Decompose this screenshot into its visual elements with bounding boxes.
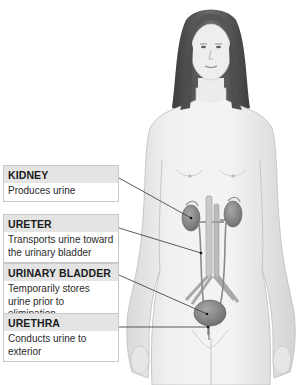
label-ureter-description: Transports urine toward the urinary blad… [4,232,118,262]
label-kidney-description: Produces urine [4,183,118,201]
label-kidney-title: KIDNEY [4,166,118,183]
label-urinary-bladder-title: URINARY BLADDER [4,264,118,281]
urinary-bladder [194,300,226,326]
aorta [206,196,212,276]
label-ureter: URETER Transports urine toward the urina… [3,214,119,263]
vena-cava [214,204,219,276]
label-urethra-title: URETHRA [4,314,118,331]
label-urethra-description: Conducts urine to exterior [4,331,118,361]
label-urethra: URETHRA Conducts urine to exterior [3,313,119,362]
label-kidney: KIDNEY Produces urine [3,165,119,202]
head [191,24,231,80]
label-ureter-title: URETER [4,215,118,232]
